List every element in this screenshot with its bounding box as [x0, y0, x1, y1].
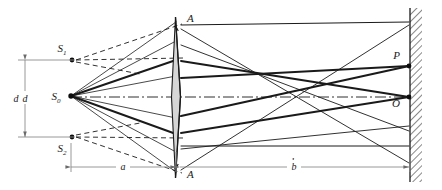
- virtual-dashed-top-2: [76, 58, 183, 60]
- marginal-ray-top: [181, 22, 409, 25]
- label-S2-subscript: 2: [63, 149, 67, 157]
- screen-hatched-band: [410, 8, 422, 182]
- label-S1-subscript: 1: [63, 49, 67, 57]
- refracted-ray-upper-2: [181, 45, 409, 131]
- virtual-dashed-bottom-2: [76, 137, 183, 138]
- refracted-ray-lower-4: [181, 25, 409, 170]
- label-S0-subscript: 0: [57, 97, 61, 105]
- label-O: O: [392, 97, 400, 109]
- incident-ray-up-3: [71, 60, 176, 96]
- label-A-bottom: A: [186, 168, 194, 180]
- label-S1: S1: [58, 42, 67, 57]
- virtual-dashed-bottom-3: [76, 123, 140, 135]
- virtual-dashed-top-3: [76, 62, 140, 74]
- observation-screen: [410, 8, 422, 182]
- ray-diagram-svg: S1 S0 S2 A A P O d a b a b d: [0, 0, 442, 190]
- virtual-dashed-top-1: [76, 24, 182, 60]
- virtual-source-projections: [76, 24, 183, 173]
- label-d: d: [14, 93, 20, 104]
- refracted-ray-upper-4: [181, 66, 409, 78]
- label-a-overlay: a: [121, 161, 126, 172]
- screen-point-dot-O: [407, 95, 412, 100]
- incident-ray-down-3: [71, 96, 176, 152]
- label-b-overlay: b: [292, 161, 297, 172]
- incident-ray-up-1: [71, 22, 176, 96]
- label-A-top: A: [186, 12, 194, 24]
- refracted-ray-upper-1: [181, 29, 409, 163]
- source-dot-S0: [68, 93, 73, 98]
- incident-ray-up-2: [71, 41, 176, 96]
- screen-point-dot-P: [407, 64, 412, 69]
- ray-bundle-right: [181, 22, 409, 170]
- label-S2: S2: [58, 142, 68, 157]
- label-gaps: [19, 91, 301, 171]
- refracted-ray-lower-2: [181, 97, 409, 133]
- optics-figure: S1 S0 S2 A A P O d a b a b d: [0, 0, 442, 190]
- label-S0: S0: [52, 90, 62, 105]
- label-P: P: [392, 49, 400, 61]
